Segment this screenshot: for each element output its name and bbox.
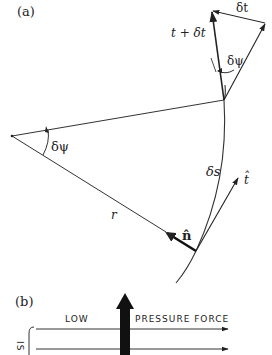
angle-arc-left [43, 130, 48, 155]
pressure-force-arrow-head [116, 293, 134, 309]
panel-b-label: (b) [15, 294, 33, 309]
pressure-force-arrow-shaft [120, 307, 130, 355]
side-label: IS [15, 341, 25, 351]
vector-t-plus-dt [212, 12, 224, 100]
t-hat-label: t̂ [244, 170, 250, 187]
r-label: r [111, 208, 118, 222]
curvature-diagram: (a) δψ r δs δψ t + δt δt n̂ t̂ (b) LOW P… [0, 0, 272, 355]
bracket [29, 327, 34, 355]
dpsi-top-label: δψ [227, 54, 244, 68]
dt-label: δt [236, 1, 248, 15]
t-plus-dt-label: t + δt [171, 26, 206, 40]
panel-a-label: (a) [17, 4, 35, 19]
trajectory-curve [176, 85, 225, 283]
radius-line-upper [12, 100, 224, 136]
dpsi-left-label: δψ [51, 139, 69, 154]
ds-label: δs [206, 164, 221, 179]
low-label: LOW [65, 314, 89, 324]
radius-line-lower [12, 136, 166, 232]
center-point [11, 135, 14, 138]
pressure-force-label: PRESSURE FORCE [135, 314, 229, 324]
n-hat-label: n̂ [182, 228, 192, 243]
tangent-tick [211, 58, 216, 72]
